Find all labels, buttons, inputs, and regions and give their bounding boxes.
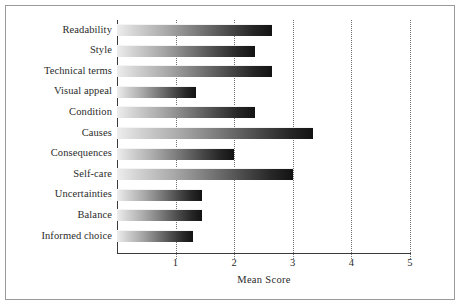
- category-label: Consequences: [0, 147, 112, 158]
- category-label: Balance: [0, 209, 112, 220]
- category-label: Causes: [0, 127, 112, 138]
- x-tick-label-1: 1: [161, 257, 191, 268]
- x-tick-label-2: 2: [219, 257, 249, 268]
- category-label: Self-care: [0, 168, 112, 179]
- bar: [117, 86, 196, 98]
- bar: [117, 168, 293, 180]
- category-label: Style: [0, 44, 112, 55]
- category-label: Informed choice: [0, 230, 112, 241]
- category-label: Condition: [0, 106, 112, 117]
- category-label: Uncertainties: [0, 188, 112, 199]
- bar: [117, 106, 255, 118]
- x-axis-line: [117, 253, 411, 254]
- x-tick-label-4: 4: [336, 257, 366, 268]
- bar: [117, 45, 255, 57]
- bar: [117, 65, 272, 77]
- bar: [117, 209, 202, 221]
- category-label: Readability: [0, 24, 112, 35]
- bar: [117, 24, 272, 36]
- bar: [117, 127, 313, 139]
- x-tick-label-5: 5: [395, 257, 425, 268]
- category-label: Technical terms: [0, 65, 112, 76]
- category-label: Visual appeal: [0, 85, 112, 96]
- bar: [117, 148, 234, 160]
- chart-figure: ReadabilityStyleTechnical termsVisual ap…: [0, 0, 462, 307]
- gridline-3: [293, 20, 294, 259]
- gridline-5: [410, 20, 411, 259]
- bar: [117, 230, 193, 242]
- gridline-4: [351, 20, 352, 259]
- x-axis-title: Mean Score: [117, 274, 411, 285]
- bar: [117, 189, 202, 201]
- x-tick-label-3: 3: [278, 257, 308, 268]
